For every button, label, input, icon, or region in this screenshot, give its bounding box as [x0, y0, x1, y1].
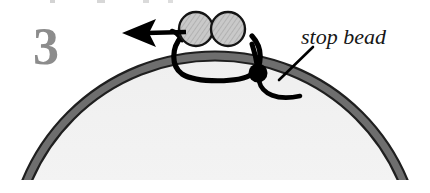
bead-left: [179, 12, 213, 46]
figure-canvas: 3 stop bead: [0, 0, 430, 192]
stop-bead-label: stop bead: [301, 24, 387, 49]
hoop: [7, 52, 424, 193]
diagram-svg: 3 stop bead: [0, 0, 430, 192]
bead-right: [211, 12, 245, 46]
bead-pair: [179, 12, 245, 46]
step-number: 3: [33, 18, 59, 75]
clipped-text-above: [50, 0, 173, 3]
arrow-shaft: [146, 32, 186, 33]
